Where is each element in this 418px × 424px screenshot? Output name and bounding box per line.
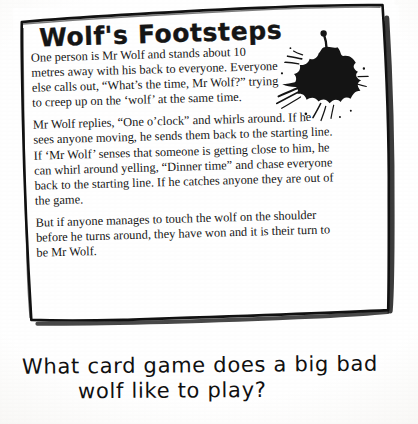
card-surface: Wolf's Footsteps One person is Mr Wolf a…: [13, 0, 402, 333]
riddle-line-2: wolf like to play?: [78, 376, 418, 404]
game-card: Wolf's Footsteps One person is Mr Wolf a…: [13, 0, 402, 333]
card-paragraph-1: One person is Mr Wolf and stands about 1…: [31, 44, 283, 111]
riddle-question: What card game does a big bad wolf like …: [0, 352, 418, 403]
ink-splat-icon: [271, 24, 377, 130]
card-paragraph-3: But if anyone manages to touch the wolf …: [35, 207, 336, 261]
